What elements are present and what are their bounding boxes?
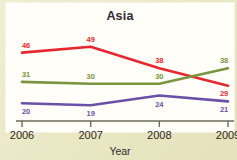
series-line-red-series xyxy=(22,47,228,86)
data-label-purple-series-2009: 21 xyxy=(220,105,228,114)
x-axis-title: Year xyxy=(6,145,234,157)
series-lines-svg xyxy=(6,3,234,132)
series-line-purple-series xyxy=(22,96,228,106)
x-tick-label-2007: 2007 xyxy=(78,129,102,141)
x-tick-label-2009: 2009 xyxy=(216,129,237,141)
data-label-purple-series-2006: 20 xyxy=(22,107,30,116)
x-tick-label-2008: 2008 xyxy=(147,129,171,141)
chart-screenshot: Asia 464938293130303820192421 2006200720… xyxy=(0,0,237,160)
data-label-green-series-2007: 30 xyxy=(87,72,95,81)
x-tick-label-2006: 2006 xyxy=(10,129,34,141)
x-axis: 2006200720082009 Year xyxy=(6,120,234,160)
data-label-red-series-2009: 29 xyxy=(220,89,228,98)
data-label-red-series-2006: 46 xyxy=(22,41,30,50)
chart-card: Asia 464938293130303820192421 xyxy=(6,3,234,132)
plot-area: 464938293130303820192421 xyxy=(6,3,234,132)
data-label-green-series-2008: 30 xyxy=(155,72,163,81)
data-label-purple-series-2008: 24 xyxy=(155,100,163,109)
data-label-green-series-2009: 38 xyxy=(220,56,228,65)
series-line-green-series xyxy=(22,68,228,84)
x-axis-line-svg xyxy=(6,120,234,132)
data-label-red-series-2007: 49 xyxy=(87,35,95,44)
data-label-purple-series-2007: 19 xyxy=(87,109,95,118)
data-label-red-series-2008: 38 xyxy=(155,56,163,65)
data-label-green-series-2006: 31 xyxy=(22,70,30,79)
